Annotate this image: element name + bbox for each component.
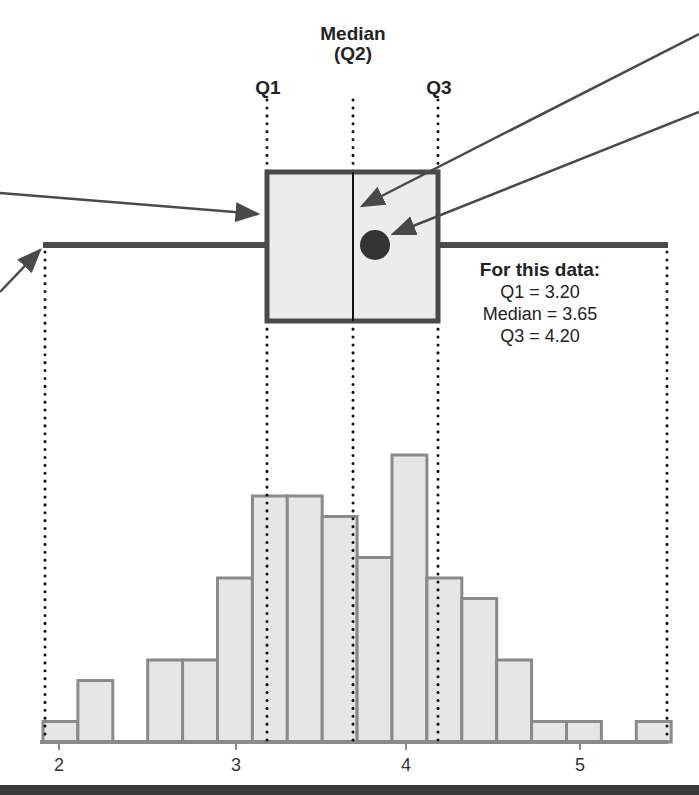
- data-summary-box: For this data: Q1 = 3.20 Median = 3.65 Q…: [470, 258, 610, 347]
- histogram-bar: [532, 722, 567, 743]
- histogram-bar: [287, 496, 322, 742]
- summary-q3: Q3 = 4.20: [470, 325, 610, 347]
- histogram-bar: [427, 578, 462, 742]
- median-label: Median (Q2): [303, 24, 403, 64]
- x-tick-label-2: 2: [44, 755, 74, 776]
- histogram-bar: [567, 722, 602, 743]
- histogram-bar: [183, 660, 218, 742]
- x-tick-label-4: 4: [391, 755, 421, 776]
- histogram-bar: [78, 681, 113, 743]
- histogram-bar: [148, 660, 183, 742]
- x-tick-label-5: 5: [565, 755, 595, 776]
- median-label-line1: Median: [303, 24, 403, 44]
- histogram-bar: [497, 660, 532, 742]
- mean-dot: [360, 230, 390, 260]
- summary-median: Median = 3.65: [470, 303, 610, 325]
- histogram-bar: [392, 455, 427, 742]
- median-label-line2: (Q2): [303, 44, 403, 64]
- x-tick-label-3: 3: [221, 755, 251, 776]
- histogram-bar: [43, 722, 78, 743]
- bottom-border-bar: [0, 785, 699, 795]
- histogram-bar: [252, 496, 287, 742]
- boxplot-histogram-diagram: Q1 Median (Q2) Q3 For this data: Q1 = 3.…: [0, 0, 699, 795]
- diagram-canvas: [0, 0, 699, 795]
- histogram-bar: [218, 578, 253, 742]
- arrow-to-box: [0, 193, 258, 214]
- summary-q1: Q1 = 3.20: [470, 281, 610, 303]
- histogram-bar: [636, 722, 671, 743]
- histogram-bars: [43, 455, 671, 742]
- histogram-bar: [357, 558, 392, 743]
- q3-label: Q3: [419, 78, 459, 98]
- histogram-bar: [462, 599, 497, 743]
- q1-label: Q1: [248, 78, 288, 98]
- summary-title: For this data:: [470, 258, 610, 281]
- arrow-to-whisker-end: [0, 250, 40, 292]
